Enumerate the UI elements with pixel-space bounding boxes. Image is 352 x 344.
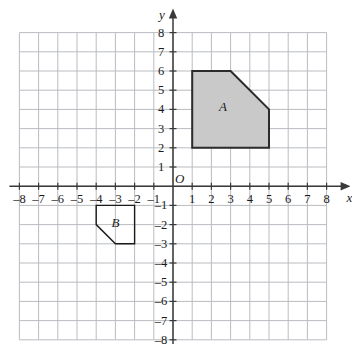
y-axis-label: y: [159, 8, 165, 21]
y-axis-tick-label: 4: [158, 103, 164, 116]
y-axis-tick-label: 2: [158, 142, 164, 155]
y-axis-tick-label: –1: [155, 199, 168, 212]
x-axis-tick-label: –4: [90, 193, 103, 206]
shape-label-b: B: [111, 215, 119, 228]
y-axis-tick-label: –4: [155, 257, 168, 270]
x-axis-tick-label: 8: [323, 193, 329, 206]
x-axis-tick-label: 6: [285, 193, 291, 206]
y-axis-tick-label: –3: [155, 238, 168, 251]
shapes-layer: [96, 71, 269, 244]
y-axis-tick-label: 7: [158, 46, 164, 59]
origin-label: O: [175, 172, 184, 185]
x-axis-tick-label: 1: [189, 193, 195, 206]
x-axis-tick-label: 4: [247, 193, 253, 206]
y-axis-tick-label: –2: [155, 218, 168, 231]
x-axis-label: x: [347, 191, 352, 204]
x-axis-tick-label: –2: [128, 193, 141, 206]
x-axis-tick-label: 2: [208, 193, 214, 206]
y-axis-tick-label: –6: [155, 295, 168, 308]
shape-a: [192, 71, 269, 148]
y-axis-tick-label: 6: [158, 65, 164, 78]
y-axis-tick-label: 3: [158, 122, 164, 135]
x-axis-tick-label: 7: [304, 193, 310, 206]
x-axis-tick-label: –8: [13, 193, 26, 206]
x-axis-arrowhead: [341, 182, 350, 190]
y-axis-tick-label: 8: [158, 26, 164, 39]
y-axis-tick-label: 5: [158, 84, 164, 97]
x-axis-tick-label: –7: [32, 193, 45, 206]
y-axis-tick-label: –8: [155, 334, 168, 344]
shape-label-a: A: [219, 99, 227, 112]
x-axis-tick-label: –5: [71, 193, 84, 206]
y-axis-tick-label: 1: [158, 161, 164, 174]
x-axis-tick-label: 5: [266, 193, 272, 206]
y-axis-tick-label: –5: [155, 276, 168, 289]
y-axis-tick-label: –7: [155, 314, 168, 327]
x-axis-tick-label: –3: [109, 193, 122, 206]
x-axis-tick-label: –6: [52, 193, 65, 206]
y-axis-arrowhead: [169, 9, 177, 19]
x-axis-tick-label: 3: [227, 193, 233, 206]
